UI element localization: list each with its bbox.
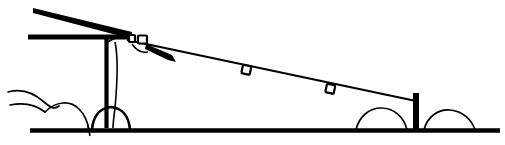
- insulator-block-small: [129, 35, 135, 42]
- right-bush-left-mound: [356, 108, 407, 130]
- upper-diagonal-boom: [33, 8, 132, 39]
- line-drawing-canvas: [0, 0, 505, 145]
- ground-tick: [88, 126, 90, 136]
- pole-taper-curve: [113, 42, 117, 128]
- figure-root: Utility pole with descending overhead wi…: [0, 0, 505, 145]
- pole-base-mound: [92, 107, 130, 130]
- left-bush-mound: [45, 103, 89, 130]
- insulator-block: [138, 36, 147, 44]
- overhead-wire: [127, 40, 416, 101]
- right-bush-right-mound: [424, 110, 475, 130]
- wire-bead-marker-2: [325, 84, 335, 94]
- left-bush-lower-arc: [10, 104, 45, 112]
- wire-bead-marker-1: [241, 65, 251, 75]
